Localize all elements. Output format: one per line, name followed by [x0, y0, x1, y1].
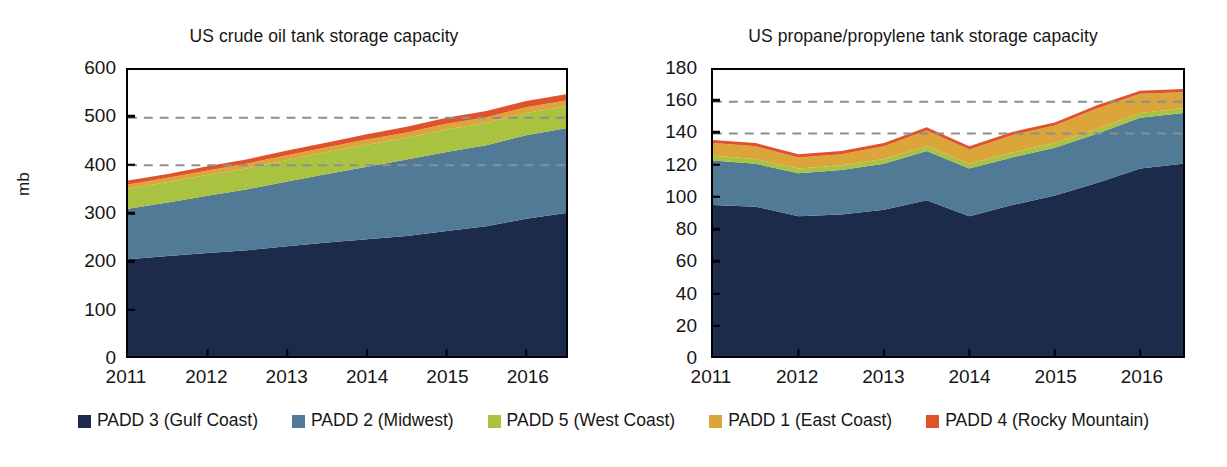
- x-tick-label: 2015: [1035, 366, 1077, 388]
- legend-label: PADD 3 (Gulf Coast): [97, 412, 258, 430]
- chart-title-propane: US propane/propylene tank storage capaci…: [607, 26, 1227, 47]
- x-tick-label: 2016: [1121, 366, 1163, 388]
- y-tick-label: 400: [84, 154, 116, 176]
- x-tick-label: 2012: [185, 366, 227, 388]
- y-tick-mark: [126, 260, 135, 263]
- x-tick-label: 2015: [426, 366, 468, 388]
- y-tick-label: 100: [665, 186, 697, 208]
- area-chart-svg-propane: [713, 70, 1183, 356]
- y-tick-label: 120: [665, 154, 697, 176]
- legend-swatch-icon: [78, 415, 91, 428]
- chart-panel-crude-oil: US crude oil tank storage capacity mb 01…: [0, 0, 620, 400]
- y-tick-label: 300: [84, 202, 116, 224]
- y-tick-label: 600: [84, 57, 116, 79]
- legend-item[interactable]: PADD 2 (Midwest): [292, 412, 454, 430]
- chart-legend: PADD 3 (Gulf Coast)PADD 2 (Midwest)PADD …: [0, 404, 1227, 438]
- y-axis-ticks-propane: 020406080100120140160180: [621, 68, 697, 358]
- y-tick-label: 80: [676, 218, 697, 240]
- y-axis-label-mb: mb: [14, 172, 34, 196]
- y-tick-label: 500: [84, 105, 116, 127]
- y-tick-label: 160: [665, 89, 697, 111]
- x-tick-label: 2012: [776, 366, 818, 388]
- legend-swatch-icon: [488, 415, 501, 428]
- x-tick-label: 2011: [106, 366, 147, 388]
- legend-label: PADD 2 (Midwest): [311, 412, 454, 430]
- chart-panel-propane: US propane/propylene tank storage capaci…: [607, 0, 1227, 400]
- y-tick-mark: [711, 99, 720, 102]
- legend-label: PADD 5 (West Coast): [507, 412, 676, 430]
- y-tick-mark: [711, 260, 720, 263]
- legend-item[interactable]: PADD 1 (East Coast): [709, 412, 892, 430]
- x-tick-label: 2013: [266, 366, 308, 388]
- y-tick-label: 140: [665, 121, 697, 143]
- figure-stacked-area-charts: US crude oil tank storage capacity mb 01…: [0, 0, 1227, 467]
- legend-swatch-icon: [926, 415, 939, 428]
- legend-item[interactable]: PADD 4 (Rocky Mountain): [926, 412, 1149, 430]
- y-axis-ticks-crude-oil: 0100200300400500600: [44, 68, 116, 358]
- y-tick-mark: [126, 212, 135, 215]
- x-axis-ticks-crude-oil: 201120122013201420152016: [126, 366, 568, 396]
- x-tick-label: 2011: [691, 366, 732, 388]
- legend-swatch-icon: [292, 415, 305, 428]
- plot-frame-propane: [711, 68, 1185, 358]
- y-tick-label: 60: [676, 250, 697, 272]
- y-tick-mark: [711, 228, 720, 231]
- x-tick-label: 2013: [862, 366, 904, 388]
- legend-label: PADD 1 (East Coast): [728, 412, 892, 430]
- area-chart-svg-crude-oil: [128, 70, 566, 356]
- y-tick-label: 200: [84, 250, 116, 272]
- y-tick-mark: [711, 196, 720, 199]
- legend-item[interactable]: PADD 5 (West Coast): [488, 412, 676, 430]
- legend-swatch-icon: [709, 415, 722, 428]
- x-axis-ticks-propane: 201120122013201420152016: [711, 366, 1185, 396]
- y-tick-mark: [126, 163, 135, 166]
- y-tick-label: 20: [676, 315, 697, 337]
- plot-area-propane: [711, 68, 1185, 358]
- x-tick-label: 2014: [948, 366, 990, 388]
- y-tick-mark: [126, 115, 135, 118]
- y-tick-label: 100: [84, 299, 116, 321]
- plot-area-crude-oil: [126, 68, 568, 358]
- legend-item[interactable]: PADD 3 (Gulf Coast): [78, 412, 258, 430]
- y-tick-mark: [711, 292, 720, 295]
- y-tick-label: 40: [676, 283, 697, 305]
- x-tick-label: 2016: [507, 366, 549, 388]
- y-tick-mark: [711, 163, 720, 166]
- plot-frame-crude-oil: [126, 68, 568, 358]
- x-tick-label: 2014: [346, 366, 388, 388]
- y-tick-mark: [126, 308, 135, 311]
- chart-title-crude-oil: US crude oil tank storage capacity: [0, 26, 634, 47]
- y-tick-label: 180: [665, 57, 697, 79]
- y-tick-mark: [711, 325, 720, 328]
- y-tick-mark: [711, 131, 720, 134]
- legend-label: PADD 4 (Rocky Mountain): [945, 412, 1149, 430]
